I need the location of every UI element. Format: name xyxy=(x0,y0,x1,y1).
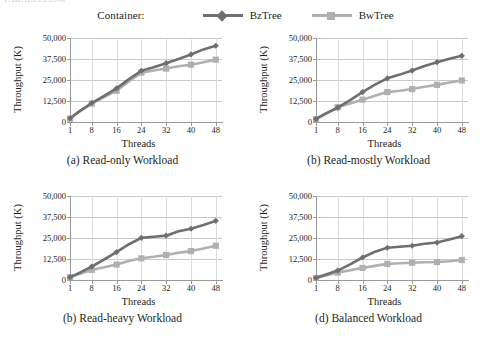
data-point-square-icon xyxy=(384,261,390,267)
x-axis-label: Threads xyxy=(302,138,467,149)
y-tick-label: 25,000 xyxy=(289,234,312,243)
y-tick-label: 25,000 xyxy=(43,234,66,243)
y-tick-label: 37,500 xyxy=(289,213,312,222)
data-point-square-icon xyxy=(213,243,219,249)
figure-legend: Container: BzTreeBwTree xyxy=(0,6,491,24)
y-tick-label: 12,500 xyxy=(43,255,66,264)
data-point-square-icon xyxy=(384,89,390,95)
y-tick-label: 37,500 xyxy=(43,55,66,64)
y-axis-label: Throughput (K) xyxy=(12,42,23,118)
y-tick-label: 12,500 xyxy=(289,255,312,264)
series-layer xyxy=(316,196,468,280)
x-tick-label: 1 xyxy=(314,284,318,293)
series-bwtree xyxy=(313,257,465,281)
x-tick-label: 8 xyxy=(336,284,340,293)
series-bwtree xyxy=(67,57,219,122)
data-point-square-icon xyxy=(188,248,194,254)
series-layer xyxy=(316,38,468,122)
plot-area: 012,50025,00037,50050,000181624324048 xyxy=(70,38,222,122)
x-tick-label: 16 xyxy=(358,284,367,293)
data-point-diamond-icon xyxy=(409,243,415,249)
x-tick-label: 40 xyxy=(433,126,442,135)
series-layer xyxy=(70,196,222,280)
legend-label: BzTree xyxy=(250,9,282,21)
y-axis-label: Throughput (K) xyxy=(258,200,269,276)
chart-figure: Throughput (K)Threads012,50025,00037,500… xyxy=(246,184,491,316)
y-axis-label: Throughput (K) xyxy=(258,42,269,118)
y-tick-label: 0 xyxy=(308,118,312,127)
x-tick-label: 32 xyxy=(408,126,417,135)
y-tick-label: 25,000 xyxy=(289,76,312,85)
plot-area: 012,50025,00037,50050,000181624324048 xyxy=(316,38,468,122)
y-tick-label: 0 xyxy=(62,118,66,127)
x-tick-label: 8 xyxy=(90,126,94,135)
x-tick-label: 8 xyxy=(90,284,94,293)
data-point-square-icon xyxy=(409,260,415,266)
chart-panel-2: Throughput (K)Threads012,50025,00037,500… xyxy=(246,26,491,186)
data-point-square-icon xyxy=(113,261,119,267)
series-bwtree xyxy=(313,77,465,122)
data-point-diamond-icon xyxy=(384,245,390,251)
plot-area: 012,50025,00037,50050,000181624324048 xyxy=(316,196,468,280)
x-tick-label: 1 xyxy=(68,284,72,293)
data-point-square-icon xyxy=(359,97,365,103)
y-tick-label: 50,000 xyxy=(289,192,312,201)
y-tick-label: 0 xyxy=(308,276,312,285)
x-tick-label: 40 xyxy=(187,126,196,135)
x-tick-label: 1 xyxy=(68,126,72,135)
x-tick-label: 32 xyxy=(408,284,417,293)
x-tick-label: 40 xyxy=(433,284,442,293)
y-tick-label: 50,000 xyxy=(43,192,66,201)
legend-swatch-diamond-icon xyxy=(203,9,243,21)
chart-figure: Throughput (K)Threads012,50025,00037,500… xyxy=(0,184,245,316)
x-tick-label: 48 xyxy=(212,284,221,293)
data-point-square-icon xyxy=(434,259,440,265)
legend-item-bztree: BzTree xyxy=(203,9,282,21)
panel-caption: (a) Read-only Workload xyxy=(0,154,245,166)
panel-caption: (b) Read-mostly Workload xyxy=(246,154,491,166)
y-tick-label: 50,000 xyxy=(289,34,312,43)
figure-panel-grid: Throughput (K)Threads012,50025,00037,500… xyxy=(0,26,491,351)
legend-item-bwtree: BwTree xyxy=(312,9,394,21)
series-bztree xyxy=(67,43,219,122)
data-point-diamond-icon xyxy=(163,233,169,239)
x-tick-label: 40 xyxy=(187,284,196,293)
data-point-square-icon xyxy=(188,62,194,68)
series-layer xyxy=(70,38,222,122)
data-point-square-icon xyxy=(213,57,219,63)
data-point-square-icon xyxy=(409,86,415,92)
data-point-diamond-icon xyxy=(163,60,169,66)
data-point-square-icon xyxy=(359,265,365,271)
data-point-square-icon xyxy=(163,65,169,71)
legend-swatch-square-icon xyxy=(312,9,352,21)
data-point-diamond-icon xyxy=(434,59,440,65)
x-tick-label: 32 xyxy=(162,284,171,293)
y-tick-label: 37,500 xyxy=(289,55,312,64)
x-tick-label: 24 xyxy=(137,284,146,293)
data-point-diamond-icon xyxy=(188,226,194,232)
x-tick-label: 48 xyxy=(458,126,467,135)
y-tick-label: 25,000 xyxy=(43,76,66,85)
chart-figure: Throughput (K)Threads012,50025,00037,500… xyxy=(246,26,491,158)
x-axis-line xyxy=(316,280,469,281)
x-axis-label: Threads xyxy=(56,296,221,307)
legend-label: BwTree xyxy=(359,9,394,21)
data-point-diamond-icon xyxy=(459,53,465,59)
chart-panel-3: Throughput (K)Threads012,50025,00037,500… xyxy=(0,184,245,344)
series-bztree xyxy=(313,53,465,122)
x-tick-label: 48 xyxy=(212,126,221,135)
data-point-square-icon xyxy=(459,257,465,263)
x-tick-label: 1 xyxy=(314,126,318,135)
series-bwtree xyxy=(67,243,219,281)
x-tick-label: 24 xyxy=(383,126,392,135)
x-axis-line xyxy=(70,122,223,123)
data-point-square-icon xyxy=(163,252,169,258)
x-tick-label: 24 xyxy=(383,284,392,293)
x-axis-line xyxy=(316,122,469,123)
chart-figure: Throughput (K)Threads012,50025,00037,500… xyxy=(0,26,245,158)
y-axis-label: Throughput (K) xyxy=(12,200,23,276)
y-tick-label: 50,000 xyxy=(43,34,66,43)
x-tick-label: 16 xyxy=(112,284,121,293)
panel-caption: (b) Read-heavy Workload xyxy=(0,312,245,324)
data-point-diamond-icon xyxy=(213,218,219,224)
